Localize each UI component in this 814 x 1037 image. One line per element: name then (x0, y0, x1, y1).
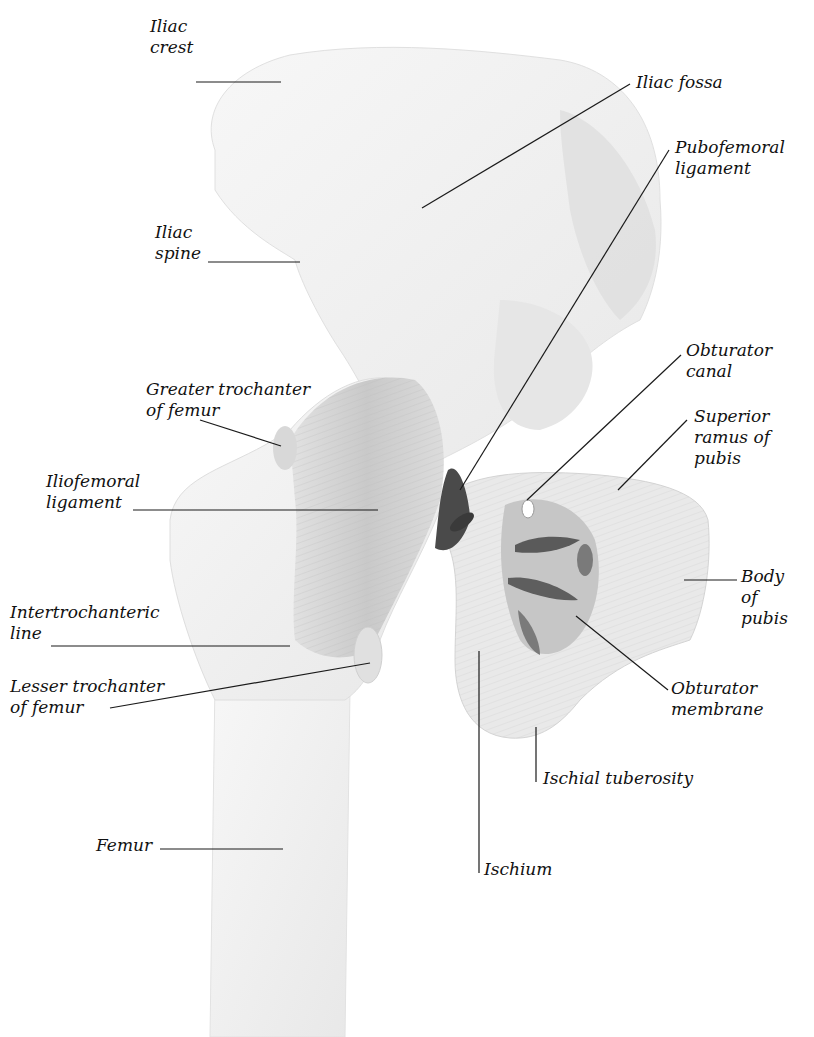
label-superior-ramus-of-pubis: Superior ramus of pubis (694, 406, 770, 469)
label-ischial-tuberosity: Ischial tuberosity (543, 768, 693, 789)
greater-trochanter-knob (273, 426, 297, 470)
label-obturator-membrane: Obturator membrane (671, 678, 763, 720)
obturator-canal-marker (522, 500, 534, 518)
label-iliac-fossa: Iliac fossa (636, 72, 723, 93)
label-body-of-pubis: Body of pubis (741, 566, 788, 629)
hip-joint-diagram: Iliac crest Iliac fossa Pubofemoral liga… (0, 0, 814, 1037)
obturator-opening-4 (577, 544, 593, 576)
lesser-trochanter-bump (354, 627, 382, 683)
label-ischium: Ischium (484, 859, 552, 880)
label-greater-trochanter: Greater trochanter of femur (146, 379, 310, 421)
label-pubofemoral-ligament: Pubofemoral ligament (675, 137, 785, 179)
label-iliac-spine: Iliac spine (155, 222, 201, 264)
label-intertrochanteric-line: Intertrochanteric line (10, 602, 159, 644)
femur-shaft (210, 680, 350, 1037)
label-iliac-crest: Iliac crest (150, 16, 193, 58)
label-obturator-canal: Obturator canal (686, 340, 772, 382)
label-iliofemoral-ligament: Iliofemoral ligament (46, 471, 140, 513)
label-lesser-trochanter: Lesser trochanter of femur (10, 676, 164, 718)
label-femur: Femur (96, 835, 152, 856)
